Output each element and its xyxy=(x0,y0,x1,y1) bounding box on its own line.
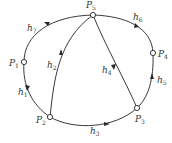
label-p4: P4 xyxy=(157,49,168,60)
label-p5: P5 xyxy=(85,0,96,11)
edge-h6 xyxy=(93,15,153,53)
arrow-h5-icon xyxy=(150,73,154,79)
label-h5: h5 xyxy=(157,75,167,86)
label-h2: h2 xyxy=(47,60,57,71)
node-p3 xyxy=(134,105,139,110)
edge-h7 xyxy=(24,15,93,62)
label-p1: P1 xyxy=(8,58,19,69)
node-p1 xyxy=(21,59,26,64)
label-h3: h3 xyxy=(90,126,100,137)
label-h1: h1 xyxy=(18,87,28,98)
arrow-h2-icon xyxy=(59,49,63,55)
node-p4 xyxy=(150,50,155,55)
label-h7: h7 xyxy=(27,23,37,34)
label-h4: h4 xyxy=(102,65,112,76)
node-p5 xyxy=(90,12,95,17)
arrow-h4-icon xyxy=(111,64,116,70)
graph-diagram: P5 P1 P4 P2 P3 h7 h6 h1 h2 h4 h5 h3 xyxy=(0,0,172,143)
label-h6: h6 xyxy=(133,12,143,23)
edge-h5 xyxy=(137,53,153,108)
label-p3: P3 xyxy=(134,114,145,125)
edge-h3 xyxy=(50,108,137,126)
node-p2 xyxy=(47,114,52,119)
edge-h4 xyxy=(93,15,137,108)
label-p2: P2 xyxy=(35,115,46,126)
